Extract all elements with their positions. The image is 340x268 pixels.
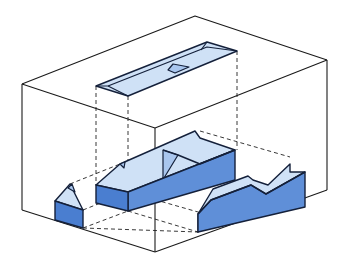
projection-line [83, 211, 128, 228]
top-view-face [96, 42, 237, 96]
box-bottom-left-edge [22, 210, 155, 252]
diagram-canvas [0, 0, 340, 268]
projection-line [128, 211, 198, 232]
glass-box-projection-diagram [0, 0, 340, 268]
top-view-projection [96, 42, 237, 96]
projection-line [83, 228, 198, 232]
side-view-projection [55, 184, 83, 228]
